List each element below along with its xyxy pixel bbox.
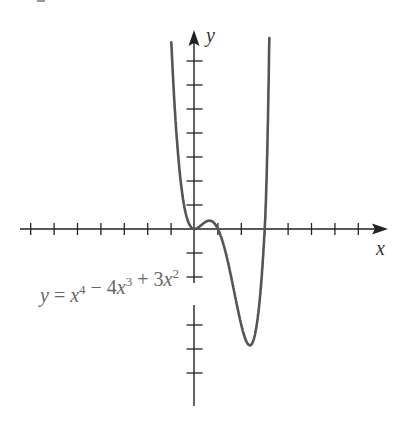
equation-variable: x [163,268,173,290]
equation-variable: x [69,284,79,306]
equation-text: = [49,284,70,306]
equation-exponent: 2 [172,266,179,281]
axes [20,40,378,406]
x-axis-label: x [375,237,385,259]
cropped-artifact [37,0,45,2]
y-axis-label: y [204,24,215,47]
equation-label: y = x4 − 4x3 + 3x2 [38,266,179,307]
equation-variable: y [38,284,49,307]
equation-text: + 3 [132,268,163,290]
equation-backdrop [178,283,212,305]
equation-variable: x [116,276,126,298]
equation-text: − 4 [86,276,117,298]
function-graph: y x y = x4 − 4x3 + 3x2 [0,0,403,427]
